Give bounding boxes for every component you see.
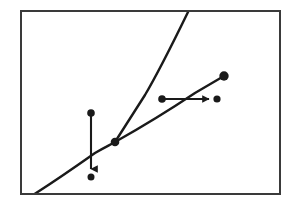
- branch-point-marker: [111, 138, 120, 147]
- horizontal-arrow-start-dot: [158, 95, 166, 103]
- vertical-arrow-start-dot: [87, 109, 95, 117]
- pressure-diagram-figure: Pressure (P): [0, 0, 294, 203]
- plot-canvas: [0, 0, 294, 203]
- vertical-arrow-end-dot: [88, 174, 95, 181]
- horizontal-arrow-end-dot: [213, 95, 220, 102]
- curve-endpoint-marker: [219, 71, 228, 80]
- plot-frame: [21, 11, 280, 194]
